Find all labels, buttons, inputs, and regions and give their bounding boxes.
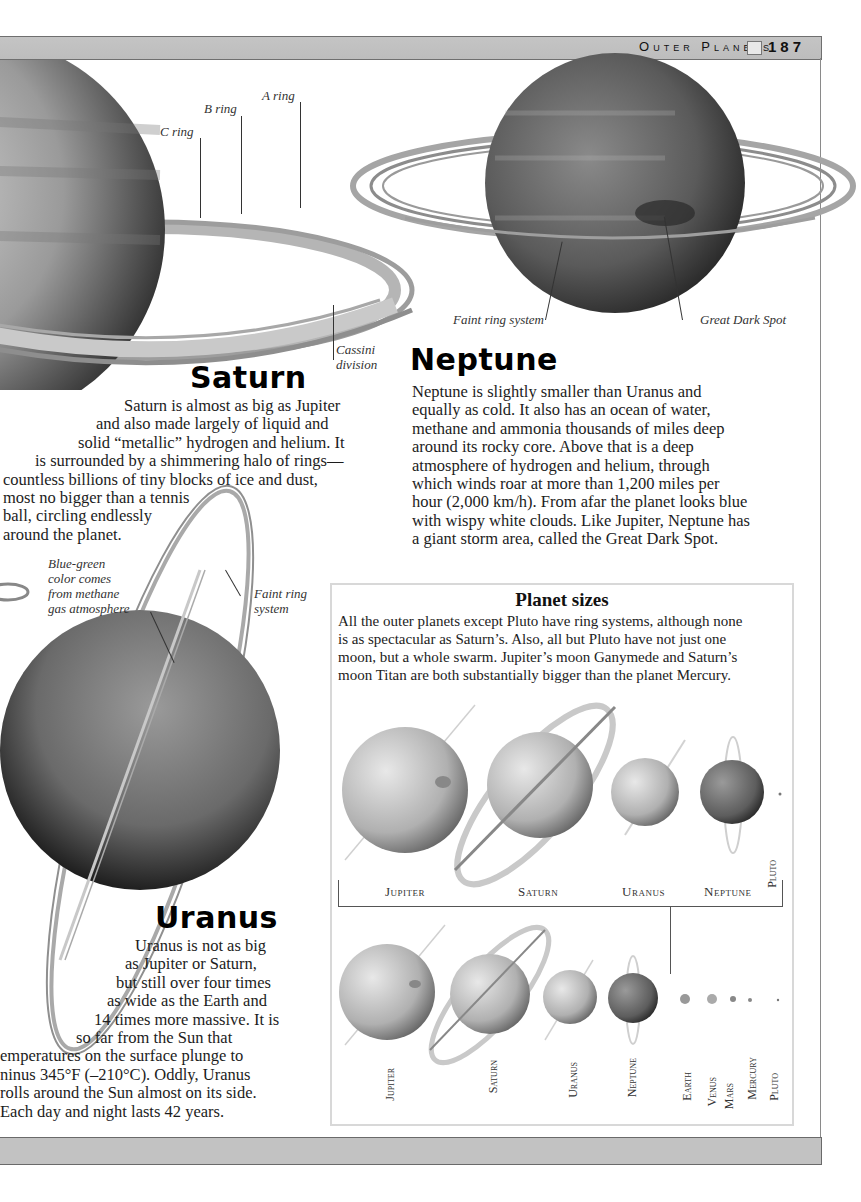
cassini-leader-line <box>333 305 334 360</box>
uranus-body-line: Each day and night lasts 42 years. <box>0 1103 320 1121</box>
row1-label-saturn: Saturn <box>518 884 558 900</box>
c-ring-leader-line <box>200 138 201 218</box>
uranus-planet-small <box>543 970 597 1024</box>
cassini-division-label: Cassini division <box>336 342 377 372</box>
planet-sizes-text-line: All the outer planets except Pluto have … <box>338 612 743 630</box>
neptune-illustration <box>345 58 861 313</box>
neptune-body-line: around its rocky core. Above that is a d… <box>412 438 750 456</box>
uranus-planet <box>611 758 679 826</box>
page-number: 187 <box>768 38 805 55</box>
row2-label-neptune: Neptune <box>625 1058 640 1097</box>
c-ring-label: C ring <box>160 124 194 139</box>
neptune-faint-ring-label: Faint ring system <box>453 312 544 327</box>
neptune-body-text: Neptune is slightly smaller than Uranus … <box>412 383 750 549</box>
row2-label-earth: Earth <box>680 1072 695 1101</box>
great-dark-spot-label: Great Dark Spot <box>700 312 786 327</box>
uranus-body-line: but still over four times <box>0 974 320 992</box>
row2-label-mercury: Mercury <box>745 1057 760 1100</box>
neptune-planet-small <box>608 973 658 1023</box>
uranus-body-line: emperatures on the surface plunge to <box>0 1047 320 1065</box>
uranus-body-line: 14 times more massive. It is <box>0 1011 320 1029</box>
row1-label-jupiter: Jupiter <box>385 884 425 900</box>
neptune-body-line: a giant storm area, called the Great Dar… <box>412 530 750 548</box>
neptune-body-line: hour (2,000 km/h). From afar the planet … <box>412 493 750 511</box>
neptune-body-line: atmosphere of hydrogen and helium, throu… <box>412 457 750 475</box>
row2-label-jupiter: Jupiter <box>383 1068 398 1101</box>
neptune-planet <box>700 760 764 824</box>
planet-sizes-row2-illustration <box>335 920 795 1050</box>
blue-green-label: Blue-green color comes from methane gas … <box>48 556 130 616</box>
a-ring-label: A ring <box>262 88 295 103</box>
uranus-body-line: ninus 345°F (–210°C). Oddly, Uranus <box>0 1066 320 1084</box>
saturn-body-line: and also made largely of liquid and <box>0 415 380 433</box>
neptune-body-line: methane and ammonia thousands of miles d… <box>412 420 750 438</box>
neptune-body-line: Neptune is slightly smaller than Uranus … <box>412 383 750 401</box>
blue-green-label-line: Blue-green <box>48 556 130 571</box>
uranus-body-line: so far from the Sun that <box>0 1029 320 1047</box>
saturn-title: Saturn <box>190 360 307 395</box>
row2-label-mars: Mars <box>722 1083 737 1109</box>
blue-green-label-line: from methane <box>48 586 130 601</box>
uranus-body-line: rolls around the Sun almost on its side. <box>0 1084 320 1102</box>
jupiter-planet <box>342 727 468 853</box>
saturn-body-line: solid “metallic” hydrogen and helium. It <box>0 434 380 452</box>
neptune-body-line: with wispy white clouds. Like Jupiter, N… <box>412 512 750 530</box>
cassini-label-line: division <box>336 357 377 372</box>
great-red-spot <box>435 776 451 788</box>
mercury-planet <box>748 998 752 1002</box>
planet-sizes-text-line: is as spectacular as Saturn’s. Also, all… <box>338 630 743 648</box>
uranus-body-line: as Jupiter or Saturn, <box>0 955 320 973</box>
pluto-planet-small <box>777 999 779 1001</box>
neptune-title: Neptune <box>410 342 558 377</box>
uranus-faint-ring-label: Faint ring system <box>254 586 307 616</box>
a-ring-leader-line <box>300 102 301 208</box>
b-ring-label: B ring <box>204 101 237 116</box>
b-ring-leader-line <box>241 116 242 214</box>
neptune-body-line: equally as cold. It also has an ocean of… <box>412 401 750 419</box>
row2-label-pluto: Pluto <box>767 1073 782 1101</box>
row2-label-saturn: Saturn <box>486 1060 501 1093</box>
cassini-label-line: Cassini <box>336 342 377 357</box>
uranus-body-line: Uranus is not as big <box>0 937 320 955</box>
row1-label-uranus: Uranus <box>622 884 665 900</box>
footer-bar <box>0 1137 822 1165</box>
saturn-body-line: Saturn is almost as big as Jupiter <box>0 397 380 415</box>
book-page-icon <box>747 41 762 55</box>
planet-sizes-row1-illustration <box>335 695 795 885</box>
saturn-planet-small <box>450 954 530 1034</box>
row1-label-neptune: Neptune <box>704 884 751 900</box>
earth-planet <box>680 994 690 1004</box>
row2-label-venus: Venus <box>705 1077 720 1107</box>
row1-label-pluto: Pluto <box>765 860 780 888</box>
row2-label-uranus: Uranus <box>566 1062 581 1098</box>
planet-sizes-text: All the outer planets except Pluto have … <box>338 612 743 684</box>
planet-sizes-text-line: moon Titan are both substantially bigger… <box>338 666 743 684</box>
venus-planet <box>707 994 717 1004</box>
mars-planet <box>730 996 736 1002</box>
blue-green-label-line: color comes <box>48 571 130 586</box>
neptune-body-line: which winds roar at more than 1,200 mile… <box>412 475 750 493</box>
saturn-body-line: is surrounded by a shimmering halo of ri… <box>0 452 380 470</box>
faint-ring-label-line: Faint ring <box>254 586 307 601</box>
uranus-body-text: Uranus is not as big as Jupiter or Satur… <box>0 937 320 1121</box>
blue-green-label-line: gas atmosphere <box>48 601 130 616</box>
planet-sizes-title: Planet sizes <box>330 589 794 611</box>
pluto-planet <box>779 793 782 796</box>
uranus-body-line: as wide as the Earth and <box>0 992 320 1010</box>
uranus-title: Uranus <box>155 900 278 935</box>
faint-ring-label-line: system <box>254 601 307 616</box>
jupiter-planet-small <box>339 944 435 1040</box>
planet-sizes-text-line: moon, but a whole swarm. Jupiter’s moon … <box>338 648 743 666</box>
